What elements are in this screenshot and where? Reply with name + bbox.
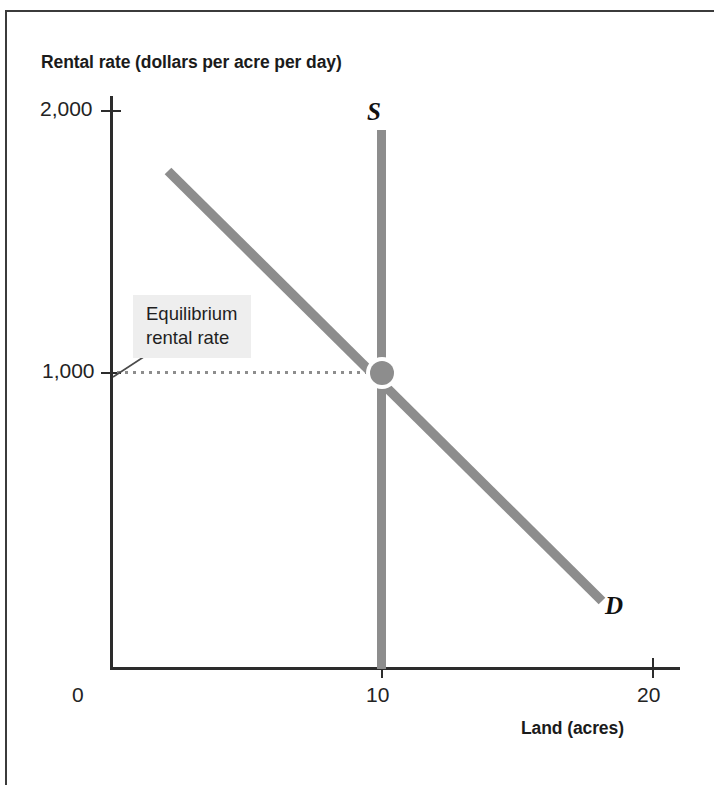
x-tick-20 [652, 658, 654, 678]
x-axis-line [110, 667, 680, 670]
equilibrium-point-marker [370, 361, 394, 385]
callout-line-1: Equilibrium [146, 302, 238, 326]
y-tick-label-1000: 1,000 [42, 359, 95, 383]
x-tick-label-10: 10 [366, 683, 389, 707]
y-axis-line [110, 96, 113, 670]
equilibrium-callout-box: Equilibrium rental rate [133, 295, 251, 358]
supply-curve-label: S [367, 98, 381, 126]
supply-curve [377, 130, 386, 669]
chart-plot-area: Rental rate (dollars per acre per day) L… [0, 0, 714, 785]
demand-curve-label: D [605, 592, 623, 620]
x-tick-label-0: 0 [72, 683, 84, 707]
y-tick-2000 [101, 110, 121, 112]
callout-line-2: rental rate [146, 326, 238, 350]
x-tick-label-20: 20 [637, 683, 660, 707]
y-axis-title: Rental rate (dollars per acre per day) [41, 52, 342, 73]
x-axis-title: Land (acres) [521, 718, 624, 739]
figure-container: Rental rate (dollars per acre per day) L… [0, 0, 714, 785]
y-tick-label-2000: 2,000 [40, 97, 93, 121]
